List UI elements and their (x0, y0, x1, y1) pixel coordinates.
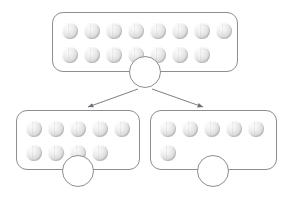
counter-ball (84, 23, 100, 39)
counter-ball (194, 23, 210, 39)
counter-ball (92, 145, 108, 161)
counter-ball (204, 121, 220, 137)
counter-ball (128, 23, 144, 39)
counter-ball (226, 121, 242, 137)
counter-ball (172, 47, 188, 63)
ball-row (160, 117, 276, 141)
whole-answer-circle[interactable] (129, 56, 161, 88)
counter-ball (48, 145, 64, 161)
counter-ball (84, 47, 100, 63)
counter-ball (26, 145, 42, 161)
worksheet-canvas (0, 0, 291, 203)
arrow-to-right-part (152, 89, 203, 107)
counter-ball (114, 121, 130, 137)
part-right-answer-circle[interactable] (197, 155, 229, 187)
counter-ball (70, 121, 86, 137)
counter-ball (92, 121, 108, 137)
counter-ball (26, 121, 42, 137)
counter-ball (62, 23, 78, 39)
counter-ball (48, 121, 64, 137)
counter-ball (62, 47, 78, 63)
counter-ball (172, 23, 188, 39)
part-left-answer-circle[interactable] (62, 155, 94, 187)
counter-ball (216, 23, 232, 39)
counter-ball (182, 121, 198, 137)
counter-ball (248, 121, 264, 137)
counter-ball (106, 47, 122, 63)
counter-ball (106, 23, 122, 39)
counter-ball (150, 23, 166, 39)
counter-ball (160, 121, 176, 137)
ball-row (62, 19, 237, 43)
arrow-to-left-part (88, 89, 138, 107)
ball-row (26, 117, 139, 141)
counter-ball (194, 47, 210, 63)
counter-ball (160, 145, 176, 161)
